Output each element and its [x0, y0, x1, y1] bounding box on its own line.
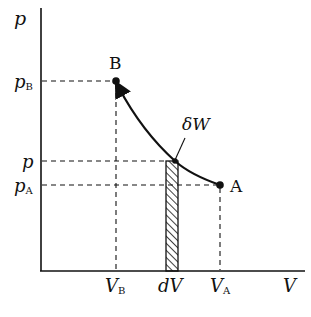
pB-main: p [14, 71, 26, 92]
work-strip [166, 161, 178, 271]
dw-label: δW [182, 114, 211, 134]
dV-label: dV [158, 275, 185, 296]
point-A-label: A [229, 176, 243, 196]
pA-label: pA [14, 175, 34, 196]
y-axis-label: p [14, 7, 26, 29]
point-A [216, 181, 224, 189]
pA-main: p [14, 175, 26, 196]
pB-sub: B [26, 81, 33, 92]
VA-sub: A [222, 285, 231, 296]
p-label: p [22, 151, 34, 172]
point-B-label: B [109, 53, 122, 73]
VB-sub: B [118, 285, 125, 296]
pA-sub: A [25, 185, 34, 196]
VA-label: VA [210, 275, 231, 296]
VB-label: VB [105, 275, 125, 296]
dw-leader [175, 138, 185, 160]
point-intersection [172, 158, 178, 164]
x-axis-label: V [283, 275, 298, 296]
pB-label: pB [14, 71, 33, 92]
point-B [112, 77, 120, 85]
pv-diagram: p V B A δW pB p pA VB dV VA [0, 0, 311, 317]
